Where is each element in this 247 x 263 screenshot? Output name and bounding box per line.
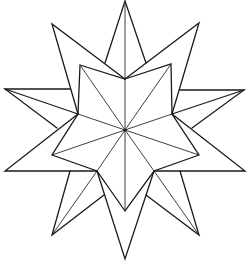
upper-left-arm: [52, 24, 125, 114]
facet-line: [52, 130, 125, 155]
inner-star: [52, 64, 199, 211]
facet-line: [125, 130, 154, 171]
left-lower-arm: [5, 114, 97, 171]
center-point: [123, 128, 126, 131]
lower-left-arm: [52, 171, 104, 235]
facet-line: [78, 114, 125, 130]
top-arm: [105, 1, 146, 63]
star-drawing: [0, 0, 247, 263]
facet-line: [80, 65, 125, 130]
inner-star-outline: [52, 64, 199, 211]
right-upper-arm-ridge: [172, 90, 244, 114]
facet-line: [97, 130, 125, 171]
facet-line: [125, 130, 199, 155]
inner-facets: [52, 64, 199, 211]
left-upper-arm-ridge: [5, 89, 78, 114]
upper-right-arm: [125, 23, 199, 114]
facet-line: [125, 114, 172, 130]
lower-right-arm: [146, 171, 199, 235]
lower-right-arm-ridge: [154, 171, 199, 235]
right-upper-arm: [180, 90, 244, 128]
lower-left-arm-ridge: [52, 171, 97, 235]
